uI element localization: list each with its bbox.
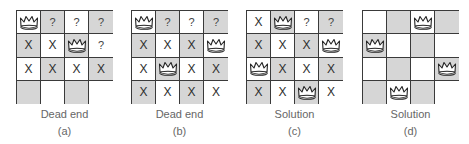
board-cell-r3-c0: X <box>132 81 156 104</box>
queen-crown-icon <box>19 14 39 31</box>
board-cell-r1-c0 <box>363 34 387 57</box>
chessboard-b: ???XXXXXXXXXX <box>131 10 228 104</box>
panel-c: X??XXXXXXXXX Solution (c) <box>246 10 342 139</box>
attacked-mark: X <box>254 15 262 29</box>
attacked-mark: X <box>48 38 56 52</box>
attacked-mark: X <box>139 85 147 99</box>
attacked-mark: X <box>163 85 171 99</box>
queen-crown-icon <box>67 37 87 54</box>
board-cell-r2-c2: X <box>65 58 89 81</box>
board-cell-r3-c1: X <box>156 81 180 104</box>
board-cell-r0-c0 <box>132 11 156 34</box>
board-cell-r3-c1: X <box>271 81 295 104</box>
unknown-mark: ? <box>98 39 104 51</box>
attacked-mark: X <box>254 38 262 52</box>
board-cell-r0-c2: ? <box>180 11 204 34</box>
board-cell-r3-c0 <box>363 81 387 104</box>
board-cell-r1-c2 <box>411 34 435 57</box>
board-cell-r2-c2: X <box>180 58 204 81</box>
board-cell-r3-c2 <box>65 81 89 104</box>
attacked-mark: X <box>278 85 286 99</box>
board-cell-r1-c3: ? <box>89 34 113 57</box>
board-cell-r2-c0 <box>247 58 271 81</box>
attacked-mark: X <box>187 62 195 76</box>
queen-crown-icon <box>321 37 341 54</box>
attacked-mark: X <box>24 38 32 52</box>
board-cell-r2-c0: X <box>132 58 156 81</box>
board-cell-r3-c0 <box>17 81 41 104</box>
board-cell-r0-c0: X <box>247 11 271 34</box>
sublabel-b: (b) <box>131 124 228 139</box>
attacked-mark: X <box>278 38 286 52</box>
attacked-mark: X <box>139 38 147 52</box>
attacked-mark: X <box>212 85 220 99</box>
attacked-mark: X <box>187 38 195 52</box>
queen-crown-icon <box>297 84 317 101</box>
unknown-mark: ? <box>98 16 104 28</box>
unknown-mark: ? <box>328 16 334 28</box>
attacked-mark: X <box>48 62 56 76</box>
chessboard-c: X??XXXXXXXXX <box>246 10 343 104</box>
board-cell-r2-c2 <box>411 58 435 81</box>
board-cell-r1-c2: X <box>180 34 204 57</box>
board-cell-r0-c1 <box>387 11 411 34</box>
board-cell-r2-c1 <box>387 58 411 81</box>
board-cell-r1-c3 <box>319 34 343 57</box>
board-cell-r2-c0: X <box>17 58 41 81</box>
board-cell-r0-c1: ? <box>41 11 65 34</box>
board-cell-r3-c2 <box>295 81 319 104</box>
board-cell-r2-c1: X <box>41 58 65 81</box>
queen-crown-icon <box>206 37 226 54</box>
board-cell-r1-c0: X <box>132 34 156 57</box>
queen-crown-icon <box>273 14 293 31</box>
sublabel-c: (c) <box>246 124 343 139</box>
board-cell-r0-c3: ? <box>319 11 343 34</box>
board-cell-r1-c1 <box>387 34 411 57</box>
board-cell-r3-c1 <box>41 81 65 104</box>
attacked-mark: X <box>24 62 32 76</box>
board-cell-r2-c0 <box>363 58 387 81</box>
board-cell-r0-c3: ? <box>89 11 113 34</box>
unknown-mark: ? <box>188 16 194 28</box>
sublabel-d: (d) <box>362 124 459 139</box>
board-cell-r1-c0: X <box>17 34 41 57</box>
caption-d: Solution <box>362 107 459 122</box>
unknown-mark: ? <box>73 16 79 28</box>
unknown-mark: ? <box>213 16 219 28</box>
panel-b: ???XXXXXXXXXX Dead end (b) <box>131 10 227 139</box>
queen-crown-icon <box>158 60 178 77</box>
unknown-mark: ? <box>164 16 170 28</box>
chessboard-a: ???XX?XXXX <box>16 10 113 104</box>
board-cell-r3-c3 <box>89 81 113 104</box>
queen-crown-icon <box>249 60 269 77</box>
chessboard-d <box>362 10 459 104</box>
board-cell-r1-c1: X <box>271 34 295 57</box>
board-cell-r2-c2: X <box>295 58 319 81</box>
board-cell-r2-c3 <box>435 58 459 81</box>
board-cell-r0-c2: ? <box>295 11 319 34</box>
board-cell-r0-c1: ? <box>156 11 180 34</box>
queen-crown-icon <box>134 14 154 31</box>
board-cell-r2-c3: X <box>204 58 228 81</box>
attacked-mark: X <box>97 62 105 76</box>
queen-crown-icon <box>437 60 457 77</box>
board-cell-r0-c3: ? <box>204 11 228 34</box>
attacked-mark: X <box>278 62 286 76</box>
board-cell-r0-c1 <box>271 11 295 34</box>
board-cell-r1-c3 <box>435 34 459 57</box>
board-cell-r0-c0 <box>17 11 41 34</box>
board-cell-r2-c1 <box>156 58 180 81</box>
board-cell-r0-c0 <box>363 11 387 34</box>
board-cell-r0-c2 <box>411 11 435 34</box>
attacked-mark: X <box>327 85 335 99</box>
board-cell-r3-c3: X <box>319 81 343 104</box>
board-cell-r2-c3: X <box>319 58 343 81</box>
panel-d: Solution (d) <box>362 10 458 139</box>
unknown-mark: ? <box>49 16 55 28</box>
attacked-mark: X <box>327 62 335 76</box>
attacked-mark: X <box>302 62 310 76</box>
board-cell-r1-c1: X <box>41 34 65 57</box>
sublabel-a: (a) <box>16 124 113 139</box>
board-cell-r3-c0: X <box>247 81 271 104</box>
panel-a: ???XX?XXXX Dead end (a) <box>16 10 112 139</box>
